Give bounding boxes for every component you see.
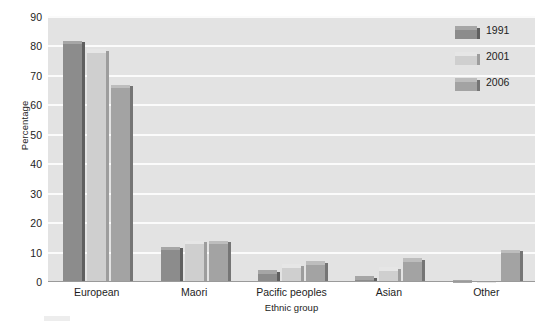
bar-face — [306, 264, 325, 282]
bar — [161, 247, 180, 282]
bar-top — [306, 261, 325, 265]
bar-side — [422, 260, 425, 282]
x-tick-label: Pacific peoples — [256, 286, 327, 298]
y-tick-label: 60 — [30, 99, 42, 111]
bar-face — [209, 244, 228, 282]
legend-item: 1991 — [455, 22, 529, 48]
legend-label: 2006 — [486, 76, 509, 88]
y-tick-label: 70 — [30, 70, 42, 82]
bar-side — [520, 251, 523, 282]
y-tick-label: 80 — [30, 40, 42, 52]
bar-top — [258, 270, 277, 274]
bar — [209, 241, 228, 282]
bar — [185, 241, 204, 282]
legend: 199120012006 — [455, 22, 529, 100]
bar-side — [325, 263, 328, 282]
bar-top — [403, 258, 422, 262]
x-axis-title: Ethnic group — [48, 302, 535, 313]
bar — [87, 49, 106, 282]
x-tick-label: Asian — [376, 286, 402, 298]
bar-group — [63, 17, 130, 282]
legend-swatch-face — [455, 29, 477, 39]
legend-swatch-top — [455, 78, 477, 82]
bar — [63, 41, 82, 282]
bar — [501, 250, 520, 282]
bar-top — [501, 250, 520, 254]
legend-label: 1991 — [486, 24, 509, 36]
bar-face — [501, 253, 520, 282]
scan-artifact — [44, 316, 70, 321]
x-axis-ticks: EuropeanMaoriPacific peoplesAsianOther — [48, 286, 535, 302]
x-tick-label: Maori — [181, 286, 207, 298]
bar-side — [204, 242, 207, 282]
bar-face — [282, 267, 301, 282]
bar-group — [161, 17, 228, 282]
legend-swatch — [455, 26, 477, 39]
legend-swatch-side — [477, 28, 480, 40]
bar-top — [87, 49, 106, 53]
bar-top — [379, 267, 398, 271]
bar-face — [161, 250, 180, 282]
bar-group — [355, 17, 422, 282]
bar-face — [185, 244, 204, 282]
bar-top — [282, 264, 301, 268]
bar — [111, 85, 130, 282]
legend-swatch-face — [455, 81, 477, 91]
bar-side — [130, 86, 133, 282]
y-tick-label: 40 — [30, 158, 42, 170]
legend-label: 2001 — [486, 50, 509, 62]
bar-side — [301, 266, 304, 282]
x-tick-label: European — [74, 286, 120, 298]
legend-swatch — [455, 78, 477, 91]
bar-top — [111, 85, 130, 89]
bar-side — [228, 242, 231, 282]
bar — [403, 258, 422, 282]
y-tick-label: 10 — [30, 247, 42, 259]
bar-top — [355, 276, 374, 280]
x-tick-label: Other — [473, 286, 499, 298]
y-tick-label: 0 — [36, 276, 42, 288]
y-tick-label: 20 — [30, 217, 42, 229]
bar-top — [185, 241, 204, 245]
bar — [306, 261, 325, 282]
y-axis-title: Percentage — [19, 76, 30, 176]
bar-side — [180, 248, 183, 282]
bar-top — [63, 41, 82, 45]
legend-swatch-face — [455, 55, 477, 65]
bar-group — [258, 17, 325, 282]
bar-side — [82, 42, 85, 282]
y-tick-label: 90 — [30, 11, 42, 23]
legend-swatch — [455, 52, 477, 65]
bar-chart: 0102030405060708090 Percentage EuropeanM… — [0, 0, 543, 327]
legend-swatch-top — [455, 26, 477, 30]
bar-face — [111, 88, 130, 282]
legend-swatch-side — [477, 54, 480, 66]
bar-face — [63, 44, 82, 282]
legend-item: 2006 — [455, 74, 529, 100]
y-tick-label: 50 — [30, 129, 42, 141]
legend-swatch-side — [477, 80, 480, 92]
bar-side — [106, 51, 109, 282]
bar-top — [161, 247, 180, 251]
bar-face — [403, 261, 422, 282]
x-axis-line — [48, 281, 535, 282]
y-tick-label: 30 — [30, 188, 42, 200]
bar-face — [87, 52, 106, 282]
legend-swatch-top — [455, 52, 477, 56]
bar — [282, 264, 301, 282]
bar-top — [209, 241, 228, 245]
bar — [379, 267, 398, 282]
legend-item: 2001 — [455, 48, 529, 74]
